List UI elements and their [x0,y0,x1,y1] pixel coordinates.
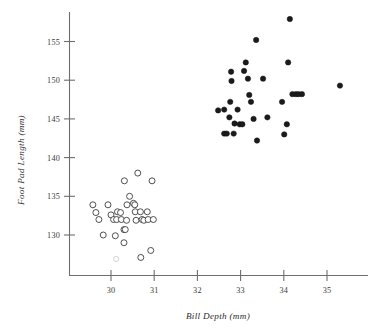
data-point-filled [285,60,290,65]
data-point-filled [251,116,256,121]
data-point-filled [232,121,237,126]
data-point-filled [228,99,233,104]
data-point-open [112,233,118,239]
x-tick-label: 34 [280,286,289,295]
plot-canvas: 130135140145150155 303132333435 Bill Dep… [0,0,382,331]
x-tick-label: 32 [193,286,202,295]
data-point-open [90,202,96,208]
y-axis-ticks: 130135140145150155 [47,38,75,241]
data-point-open [132,202,138,208]
data-point-open [144,209,150,215]
data-point-filled [284,122,289,127]
data-point-open [124,217,130,223]
y-tick-label: 135 [47,192,60,201]
data-point-open [122,227,128,233]
data-point-filled [254,138,259,143]
data-point-open [105,202,111,208]
data-point-open [93,210,99,216]
data-point-filled [247,92,252,97]
data-point-filled [248,99,253,104]
data-point-filled [243,60,248,65]
data-point-open [127,193,133,199]
data-point-open-faint [114,256,119,261]
data-point-filled [265,115,270,120]
data-point-filled [337,83,342,88]
data-point-filled [240,122,245,127]
data-point-filled [229,78,234,83]
x-axis-title: Bill Depth (mm) [186,311,250,321]
data-point-layer [90,16,343,261]
data-point-filled [235,107,240,112]
y-tick-label: 150 [47,76,60,85]
data-point-filled [224,131,229,136]
x-tick-label: 30 [107,286,116,295]
data-point-open [133,217,139,223]
data-point-open [150,217,156,223]
data-point-open [118,210,124,216]
data-point-open [100,232,106,238]
data-point-open [121,178,127,184]
data-point-open [121,240,127,246]
data-point-filled [221,107,226,112]
x-tick-label: 31 [150,286,159,295]
data-point-open [137,209,143,215]
data-point-filled [241,68,246,73]
data-point-open [96,217,102,223]
y-axis-title: Foot Pad Length (mm) [16,115,26,206]
data-point-filled [282,132,287,137]
data-point-filled [299,91,304,96]
data-point-filled [215,108,220,113]
y-tick-label: 155 [47,38,60,47]
data-point-filled [228,69,233,74]
y-tick-label: 140 [47,154,60,163]
data-point-filled [260,76,265,81]
data-point-open [138,254,144,260]
x-tick-label: 33 [236,286,245,295]
data-point-open [135,170,141,176]
y-tick-label: 145 [47,115,60,124]
data-point-filled [253,37,258,42]
y-tick-label: 130 [47,231,60,240]
data-point-filled [227,115,232,120]
x-tick-label: 35 [323,286,332,295]
data-point-open [148,247,154,253]
data-point-open [149,178,155,184]
data-point-filled [231,131,236,136]
data-point-filled [245,76,250,81]
x-axis-ticks: 303132333435 [107,270,332,295]
scatter-plot-figure: 130135140145150155 303132333435 Bill Dep… [0,0,382,331]
data-point-open [124,202,130,208]
data-point-filled [287,16,292,21]
data-point-filled [279,99,284,104]
